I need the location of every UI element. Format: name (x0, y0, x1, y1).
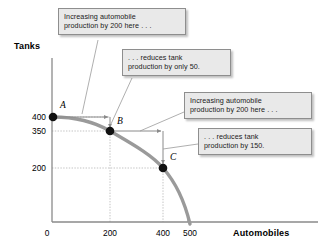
x-tick-label-0: 0 (38, 228, 56, 238)
leader-line-callout-3 (140, 112, 184, 131)
callout-reduces-tank-production-by-150: . . . reduces tank production by 150. (198, 128, 312, 155)
x-tick-label-200: 200 (96, 228, 124, 238)
x-tick-label-400: 400 (149, 228, 177, 238)
data-point-label-b: B (117, 116, 123, 126)
y-tick-label-200: 200 (18, 163, 46, 173)
data-point-label-a: A (60, 100, 66, 110)
data-point-b (106, 127, 115, 136)
x-axis-title: Automobiles (233, 228, 289, 238)
y-tick-label-350: 350 (18, 126, 46, 136)
data-point-label-c: C (170, 152, 176, 162)
ppf-curve (53, 117, 190, 224)
chart-plot-area (0, 0, 324, 251)
y-axis-title: Tanks (14, 41, 40, 51)
data-point-markers (49, 113, 168, 173)
callout-increasing-automobile-production-a-to-b: Increasing automobile production by 200 … (58, 8, 186, 35)
y-tick-label-400: 400 (18, 112, 46, 122)
callout-increasing-automobile-production-b-to-c: Increasing automobile production by 200 … (184, 92, 312, 119)
leader-line-callout-1 (82, 40, 98, 114)
leader-line-callout-4 (163, 144, 198, 149)
data-point-a (49, 113, 58, 122)
ppf-chart-figure: Tanks Automobiles 400 350 200 0 200 400 … (0, 0, 324, 251)
callout-reduces-tank-production-by-only-50: . . . reduces tank production by only 50… (122, 49, 231, 76)
data-point-c (159, 164, 168, 173)
x-tick-label-500: 500 (176, 228, 204, 238)
